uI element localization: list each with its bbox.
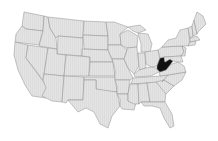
state-michigan (138, 33, 152, 52)
state-south-dakota (83, 35, 108, 50)
state-colorado (64, 55, 90, 76)
state-wyoming (57, 36, 83, 56)
state-arkansas (115, 80, 130, 94)
state-florida (141, 102, 174, 128)
state-mississippi (128, 84, 139, 104)
state-kentucky (134, 67, 159, 77)
state-north-dakota (83, 21, 108, 36)
state-indiana (138, 53, 146, 70)
state-maryland (164, 56, 183, 62)
us-map-svg (0, 0, 218, 141)
state-new-york (162, 28, 190, 47)
state-iowa (108, 45, 127, 59)
state-wisconsin (120, 30, 138, 48)
state-kansas (89, 62, 115, 76)
us-map (0, 0, 218, 141)
state-washington (22, 12, 44, 31)
state-new-mexico (62, 76, 84, 103)
